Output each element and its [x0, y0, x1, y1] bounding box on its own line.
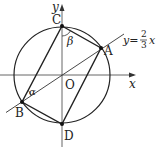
label-B: B: [15, 106, 24, 120]
equation-lhs: y=: [122, 34, 138, 47]
label-C: C: [52, 13, 61, 27]
equation-var: x: [149, 34, 156, 47]
y-axis-arrow-icon: [60, 4, 65, 11]
label-O: O: [65, 78, 75, 92]
point-A: [99, 46, 103, 50]
label-beta: β: [66, 35, 73, 48]
point-B: [20, 100, 24, 104]
label-y-axis: y: [51, 0, 59, 14]
diagram-canvas: C A B D O x y β α y= 2 3 x: [0, 0, 159, 147]
label-D: D: [64, 129, 74, 143]
equation-numerator: 2: [141, 29, 147, 39]
equation-denominator: 3: [141, 40, 147, 50]
label-A: A: [103, 44, 113, 58]
label-x-axis: x: [129, 77, 136, 91]
point-D: [60, 122, 64, 126]
label-alpha: α: [29, 86, 36, 97]
